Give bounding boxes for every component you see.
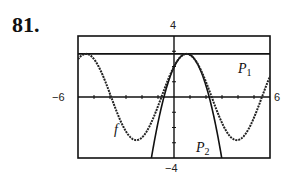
p1-label: P1 bbox=[237, 61, 252, 78]
p2-label: P2 bbox=[195, 140, 210, 157]
f-label: f bbox=[114, 122, 120, 137]
graph-window: f P1 P2 bbox=[0, 0, 296, 183]
